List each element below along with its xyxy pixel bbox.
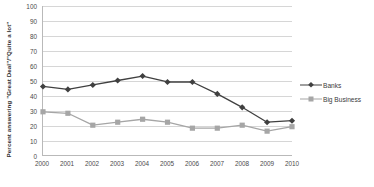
x-axis-tick-label: 2002 [85, 160, 99, 167]
x-axis-tick-label: 2008 [235, 160, 249, 167]
y-axis-tick-label: 30 [30, 108, 37, 115]
data-point [65, 111, 70, 116]
data-point [289, 118, 295, 124]
y-axis-tick-label: 90 [30, 18, 37, 25]
y-axis-tick-label: 80 [30, 33, 37, 40]
line-chart: Percent answering "Great Deal"/"Quite a … [0, 0, 374, 187]
legend-label: Banks [322, 82, 341, 89]
data-point [140, 117, 145, 122]
y-axis-tick-label: 10 [30, 138, 37, 145]
data-point [240, 123, 245, 128]
x-axis-tick-label: 2009 [260, 160, 274, 167]
data-point [90, 123, 95, 128]
y-axis-tick-label: 50 [30, 78, 37, 85]
data-point [90, 82, 96, 88]
series-canvas [43, 6, 292, 155]
chart-legend: BanksBig Business [300, 78, 374, 106]
plot-area [42, 6, 292, 156]
data-point [189, 79, 195, 85]
y-axis-ticks: 0102030405060708090100 [18, 6, 40, 156]
y-axis-title: Percent answering "Great Deal"/"Quite a … [0, 0, 18, 178]
series-banks [40, 73, 295, 125]
x-axis-ticks: 2000200120022003200420052006200720082009… [42, 160, 292, 176]
data-point [265, 129, 270, 134]
data-point [215, 126, 220, 131]
data-point [264, 119, 270, 125]
legend-square-marker-icon [300, 94, 322, 104]
y-axis-tick-label: 20 [30, 123, 37, 130]
data-point [289, 124, 294, 129]
x-axis-tick-label: 2000 [35, 160, 49, 167]
legend-item[interactable]: Big Business [300, 92, 374, 106]
legend-item[interactable]: Banks [300, 78, 374, 92]
x-axis-tick-label: 2007 [210, 160, 224, 167]
data-point [115, 77, 121, 83]
x-axis-tick-label: 2001 [60, 160, 74, 167]
y-axis-tick-label: 60 [30, 63, 37, 70]
x-axis-tick-label: 2005 [160, 160, 174, 167]
y-axis-tick-label: 40 [30, 93, 37, 100]
x-axis-tick-label: 2004 [135, 160, 149, 167]
data-point [164, 79, 170, 85]
data-point [40, 83, 46, 89]
data-point [190, 126, 195, 131]
data-point [165, 120, 170, 125]
legend-diamond-marker-icon [300, 80, 322, 90]
data-point [115, 120, 120, 125]
data-point [40, 109, 45, 114]
data-point [65, 86, 71, 92]
y-axis-tick-label: 70 [30, 48, 37, 55]
x-axis-tick-label: 2006 [185, 160, 199, 167]
x-axis-tick-label: 2003 [110, 160, 124, 167]
y-axis-title-text: Percent answering "Great Deal"/"Quite a … [6, 21, 13, 157]
y-axis-tick-label: 0 [33, 153, 37, 160]
data-point [140, 73, 146, 79]
data-point [214, 91, 220, 97]
x-axis-tick-label: 2010 [285, 160, 299, 167]
y-axis-tick-label: 100 [26, 3, 37, 10]
data-point [239, 104, 245, 110]
series-big-business [40, 109, 294, 134]
legend-label: Big Business [322, 96, 361, 103]
